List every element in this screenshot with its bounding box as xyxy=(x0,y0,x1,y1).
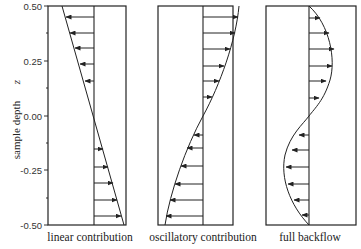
y-tick-0-00: 0.00 xyxy=(24,111,43,122)
profile-curve xyxy=(62,6,124,225)
panel-label-full-backflow: full backflow xyxy=(279,231,341,243)
svg-text:z: z xyxy=(10,79,22,85)
backflow-diagram: 0.50 0.25 0.00 -0.25 -0.50 sample depth … xyxy=(0,0,361,249)
y-axis-title: sample depth z xyxy=(10,79,22,159)
panel-oscillatory xyxy=(158,6,239,225)
panel-full-backflow xyxy=(266,6,356,225)
profile-curve xyxy=(284,6,332,225)
profile-curve xyxy=(165,6,239,225)
y-tick-0-25: 0.25 xyxy=(24,56,43,67)
svg-text:sample depth: sample depth xyxy=(10,100,22,159)
y-tick-0-50: 0.50 xyxy=(24,1,43,12)
y-tick-neg-0-50: -0.50 xyxy=(20,220,42,231)
panel-label-oscillatory: oscillatory contribution xyxy=(149,231,257,244)
panel-label-linear: linear contribution xyxy=(47,231,133,243)
y-tick-neg-0-25: -0.25 xyxy=(20,165,42,176)
panel-linear xyxy=(48,6,126,225)
